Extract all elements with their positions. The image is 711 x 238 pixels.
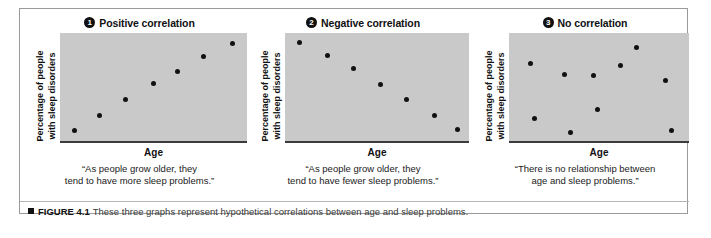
- data-point: [595, 107, 600, 112]
- panel-header: 3 No correlation: [481, 15, 689, 30]
- scatter-plot-area: [60, 33, 247, 143]
- chart-zone: Percentage of people with sleep disorder…: [32, 33, 247, 158]
- data-point: [404, 97, 409, 102]
- y-axis-label: Percentage of people with sleep disorder…: [481, 33, 509, 158]
- panel-number-badge-icon: 3: [543, 17, 554, 28]
- y-axis-label-line2: with sleep disorders: [46, 50, 58, 141]
- data-point: [663, 78, 668, 83]
- data-point: [175, 69, 180, 74]
- data-point: [669, 128, 674, 133]
- y-axis-label: Percentage of people with sleep disorder…: [257, 33, 285, 158]
- figure-container: 1 Positive correlation Percentage of peo…: [0, 0, 711, 238]
- plot-wrapper: Age: [509, 33, 689, 158]
- plot-wrapper: Age: [285, 33, 469, 158]
- y-axis-label-line2: with sleep disorders: [495, 50, 507, 141]
- panel-quote: “As people grow older, they tend to have…: [32, 163, 247, 187]
- chart-zone: Percentage of people with sleep disorder…: [481, 33, 689, 158]
- data-point: [532, 116, 537, 121]
- data-point: [455, 127, 460, 132]
- caption-label: FIGURE 4.1: [38, 206, 90, 217]
- x-axis-label: Age: [509, 147, 689, 158]
- y-axis-label-line1: Percentage of people: [260, 50, 272, 141]
- panel-quote: “There is no relationship between age an…: [481, 163, 689, 187]
- panel-number-badge-icon: 1: [84, 17, 95, 28]
- caption-divider: [20, 201, 689, 202]
- panel-quote-line1: “There is no relationship between: [483, 163, 687, 175]
- data-point: [432, 113, 437, 118]
- panel-negative-correlation: 2 Negative correlation Percentage of peo…: [247, 15, 469, 200]
- panel-number-badge-icon: 2: [306, 17, 317, 28]
- panels-row: 1 Positive correlation Percentage of peo…: [20, 15, 689, 200]
- panel-quote-line2: tend to have more sleep problems.”: [34, 175, 245, 187]
- panel-no-correlation: 3 No correlation Percentage of people wi…: [469, 15, 689, 200]
- x-axis-label: Age: [60, 147, 247, 158]
- panel-quote-line1: “As people grow older, they: [259, 163, 467, 175]
- data-point: [72, 128, 77, 133]
- panel-title: No correlation: [558, 17, 628, 29]
- figure-caption: FIGURE 4.1These three graphs represent h…: [28, 205, 683, 218]
- data-point: [591, 73, 596, 78]
- data-point: [528, 61, 533, 66]
- plot-wrapper: Age: [60, 33, 247, 158]
- figure-border-box: 1 Positive correlation Percentage of peo…: [19, 8, 688, 214]
- x-axis-label: Age: [285, 147, 469, 158]
- y-axis-label-line2: with sleep disorders: [271, 50, 283, 141]
- scatter-plot-area: [285, 33, 469, 143]
- panel-quote-line1: “As people grow older, they: [34, 163, 245, 175]
- data-point: [201, 54, 206, 59]
- data-point: [230, 41, 235, 46]
- data-point: [151, 81, 156, 86]
- panel-quote-line2: tend to have fewer sleep problems.”: [259, 175, 467, 187]
- caption-text: These three graphs represent hypothetica…: [93, 206, 468, 217]
- panel-quote: “As people grow older, they tend to have…: [257, 163, 469, 187]
- y-axis-label: Percentage of people with sleep disorder…: [32, 33, 60, 158]
- data-point: [97, 113, 102, 118]
- panel-header: 1 Positive correlation: [32, 15, 247, 30]
- y-axis-label-line1: Percentage of people: [35, 50, 47, 141]
- panel-title: Positive correlation: [99, 17, 194, 29]
- data-point: [634, 45, 639, 50]
- data-point: [378, 82, 383, 87]
- data-point: [351, 66, 356, 71]
- caption-bullet-icon: [28, 208, 34, 214]
- panel-positive-correlation: 1 Positive correlation Percentage of peo…: [20, 15, 247, 200]
- data-point: [618, 63, 623, 68]
- data-point: [123, 97, 128, 102]
- data-point: [562, 72, 567, 77]
- panel-header: 2 Negative correlation: [257, 15, 469, 30]
- panel-quote-line2: age and sleep problems.”: [483, 175, 687, 187]
- chart-zone: Percentage of people with sleep disorder…: [257, 33, 469, 158]
- panel-title: Negative correlation: [321, 17, 420, 29]
- scatter-plot-area: [509, 33, 689, 143]
- y-axis-label-line1: Percentage of people: [484, 50, 496, 141]
- data-point: [568, 130, 573, 135]
- data-point: [297, 40, 302, 45]
- data-point: [325, 53, 330, 58]
